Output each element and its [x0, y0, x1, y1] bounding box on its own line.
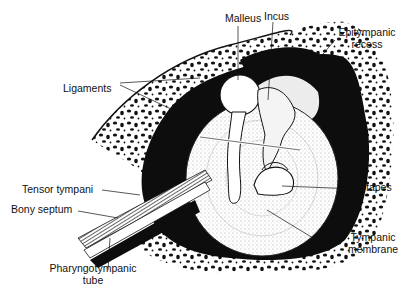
- label-epitympanic-line1: Epitympanic: [332, 26, 402, 38]
- label-incus: Incus: [264, 10, 289, 22]
- diagram-canvas: Malleus Incus Epitympanic recess Ligamen…: [0, 0, 408, 290]
- label-tympanic-line2: membrane: [338, 243, 408, 255]
- label-pharyngotympanic-tube: Pharyngotympanic tube: [48, 262, 138, 286]
- label-tympanic-line1: Tympanic: [338, 231, 408, 243]
- label-pharyngo-line1: Pharyngotympanic: [48, 262, 138, 274]
- label-bony-septum: Bony septum: [11, 203, 72, 215]
- label-epitympanic-recess: Epitympanic recess: [332, 26, 402, 50]
- label-ligaments: Ligaments: [63, 82, 111, 94]
- label-tensor-tympani: Tensor tympani: [22, 183, 93, 195]
- label-pharyngo-line2: tube: [48, 274, 138, 286]
- label-malleus: Malleus: [225, 12, 261, 24]
- label-stapes: Stapes: [359, 181, 392, 193]
- label-epitympanic-line2: recess: [332, 38, 402, 50]
- label-tympanic-membrane: Tympanic membrane: [338, 231, 408, 255]
